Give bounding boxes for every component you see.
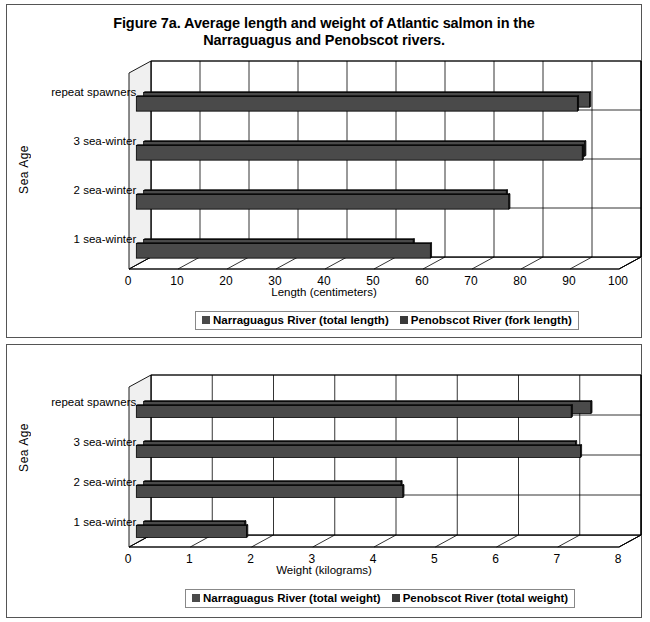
legend-label: Penobscot River (total weight) (403, 592, 569, 604)
legend-label: Narraguagus River (total weight) (203, 592, 381, 604)
category-label: 3 sea-winter (27, 135, 136, 147)
category-label: repeat spawners (27, 396, 136, 408)
legend-label: Narraguagus River (total length) (213, 314, 389, 326)
figure-page: Figure 7a. Average length and weight of … (0, 0, 650, 622)
category-label: 3 sea-winter (27, 436, 136, 448)
length-chart-x-axis-title: Length (centimeters) (7, 286, 641, 298)
weight-chart-x-axis-title: Weight (kilograms) (7, 564, 641, 576)
category-label: 2 sea-winter (27, 184, 136, 196)
length-chart-legend: Narraguagus River (total length)Penobsco… (195, 311, 579, 330)
category-label: repeat spawners (27, 86, 136, 98)
weight-chart-legend: Narraguagus River (total weight)Penobsco… (185, 589, 575, 608)
length-chart-panel: Figure 7a. Average length and weight of … (6, 4, 642, 338)
category-label: 1 sea-winter (27, 516, 136, 528)
legend-label: Penobscot River (fork length) (411, 314, 572, 326)
category-label: 2 sea-winter (27, 476, 136, 488)
category-label: 1 sea-winter (27, 233, 136, 245)
legend-swatch-narraguagus (202, 316, 210, 324)
weight-chart-panel: Sea Age 012345678repeat spawners3 sea-wi… (6, 344, 642, 618)
legend-swatch-narraguagus (192, 594, 200, 602)
legend-swatch-penobscot (392, 594, 400, 602)
legend-swatch-penobscot (400, 316, 408, 324)
